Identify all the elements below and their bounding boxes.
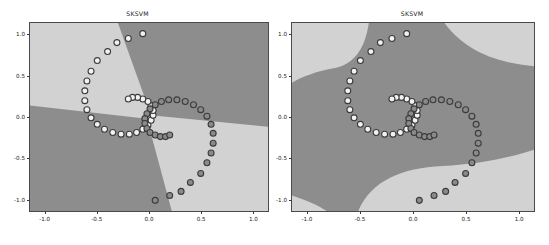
data-point — [105, 49, 111, 55]
y-tick-mark — [27, 158, 30, 159]
data-point — [416, 102, 422, 108]
data-point — [423, 98, 429, 104]
data-point — [389, 36, 395, 42]
y-tick-label: -0.5 — [265, 155, 287, 161]
y-tick-label: 0.5 — [3, 73, 25, 79]
data-point — [404, 31, 410, 37]
data-point — [88, 115, 94, 121]
x-tick-mark — [519, 211, 520, 214]
y-tick-mark — [289, 200, 292, 201]
data-point — [455, 102, 461, 108]
y-tick-label: 1.0 — [3, 31, 25, 37]
data-point — [382, 131, 388, 137]
plot-title-2: SKSVM — [275, 10, 549, 17]
data-point — [167, 132, 173, 138]
data-point — [140, 31, 146, 37]
data-point — [377, 40, 383, 46]
data-point — [88, 68, 94, 74]
x-tick-label: 0.0 — [409, 216, 418, 222]
plot-axes-2 — [291, 22, 535, 212]
data-point — [357, 121, 363, 127]
data-point — [110, 130, 116, 136]
y-tick-label: -0.5 — [3, 155, 25, 161]
data-point — [84, 78, 90, 84]
data-point — [210, 140, 216, 146]
x-tick-mark — [97, 211, 98, 214]
data-point — [204, 160, 210, 166]
data-point — [114, 40, 120, 46]
data-point — [463, 107, 469, 113]
y-tick-label: 1.0 — [265, 31, 287, 37]
x-tick-mark — [466, 211, 467, 214]
data-point — [438, 97, 444, 103]
data-point — [345, 88, 351, 94]
data-point — [167, 192, 173, 198]
data-point — [430, 97, 436, 103]
data-point — [198, 170, 204, 176]
x-tick-mark — [201, 211, 202, 214]
data-point — [125, 36, 131, 42]
x-tick-label: 1.0 — [249, 216, 258, 222]
data-point — [198, 107, 204, 113]
data-point — [443, 188, 449, 194]
data-point — [365, 126, 371, 132]
data-point — [126, 131, 132, 137]
x-tick-mark — [307, 211, 308, 214]
figure-canvas: SKSVM 1.00.50.0-0.5-1.0 -1.0-0.50.00.51.… — [0, 0, 549, 245]
data-point — [174, 97, 180, 103]
data-point — [469, 113, 475, 119]
data-point — [452, 179, 458, 185]
data-point — [368, 49, 374, 55]
data-point — [125, 96, 131, 102]
data-point — [204, 113, 210, 119]
data-point — [463, 170, 469, 176]
data-point — [373, 130, 379, 136]
x-tick-mark — [413, 211, 414, 214]
plot-title-1: SKSVM — [0, 10, 275, 17]
x-tick-label: -1.0 — [39, 216, 50, 222]
data-point — [397, 130, 403, 136]
data-point — [475, 130, 481, 136]
x-tick-mark — [149, 211, 150, 214]
data-point — [84, 107, 90, 113]
y-tick-label: -1.0 — [265, 197, 287, 203]
data-point — [208, 150, 214, 156]
x-tick-label: 0.5 — [197, 216, 206, 222]
plot-panel-1: SKSVM 1.00.50.0-0.5-1.0 -1.0-0.50.00.51.… — [0, 0, 275, 245]
data-point — [347, 107, 353, 113]
x-tick-label: -1.0 — [301, 216, 312, 222]
data-point — [94, 121, 100, 127]
data-point — [447, 98, 453, 104]
x-tick-mark — [360, 211, 361, 214]
data-point — [191, 102, 197, 108]
data-point — [102, 126, 108, 132]
y-tick-mark — [289, 158, 292, 159]
y-tick-label: 0.0 — [265, 114, 287, 120]
data-point — [416, 197, 422, 203]
data-point — [475, 140, 481, 146]
data-point — [351, 68, 357, 74]
plot-axes-1 — [29, 22, 269, 212]
data-point — [118, 131, 124, 137]
data-point — [134, 130, 140, 136]
data-point — [82, 88, 88, 94]
data-point — [166, 97, 172, 103]
data-point — [345, 98, 351, 104]
y-tick-mark — [27, 117, 30, 118]
x-tick-label: -0.5 — [354, 216, 365, 222]
data-point — [208, 121, 214, 127]
data-point — [473, 121, 479, 127]
y-tick-mark — [289, 117, 292, 118]
data-point — [347, 78, 353, 84]
x-tick-label: 1.0 — [515, 216, 524, 222]
y-tick-mark — [27, 200, 30, 201]
y-tick-mark — [289, 34, 292, 35]
data-point — [431, 192, 437, 198]
data-point — [210, 130, 216, 136]
data-point — [158, 98, 164, 104]
y-tick-label: -1.0 — [3, 197, 25, 203]
y-tick-label: 0.5 — [265, 73, 287, 79]
data-point — [187, 179, 193, 185]
plot-panel-2: SKSVM 1.00.50.0-0.5-1.0 -1.0-0.50.00.51.… — [275, 0, 549, 245]
data-point — [94, 58, 100, 64]
